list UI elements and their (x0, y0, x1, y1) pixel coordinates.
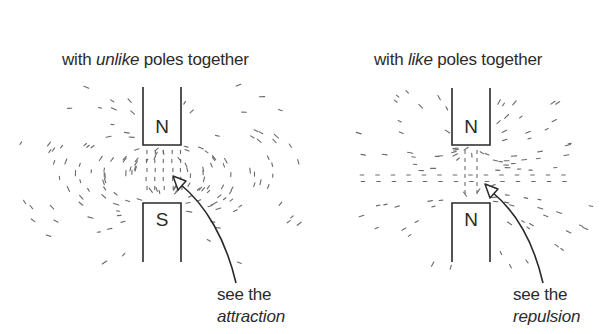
title-unlike-poles: with unlike poles together (62, 50, 249, 70)
title-prefix: with (374, 50, 408, 69)
title-suffix: poles together (433, 50, 542, 69)
caption-line2: repulsion (513, 306, 580, 328)
title-emphasis: like (408, 50, 433, 69)
title-prefix: with (62, 50, 96, 69)
caption-attraction: see the attraction (217, 284, 285, 328)
arrow-attraction (173, 176, 236, 283)
title-suffix: poles together (139, 50, 248, 69)
title-like-poles: with like poles together (374, 50, 542, 70)
magnetic-field-diagram: with unlike poles together with like pol… (0, 0, 615, 334)
pole-label-south-left: S (143, 209, 181, 231)
iron-filings-attraction (20, 84, 301, 264)
caption-line1: see the (513, 285, 567, 304)
title-emphasis: unlike (96, 50, 139, 69)
caption-line1: see the (217, 285, 271, 304)
pole-label-north-right-bottom: N (452, 209, 490, 231)
arrow-repulsion (485, 184, 543, 283)
caption-repulsion: see the repulsion (513, 284, 580, 328)
caption-line2: attraction (217, 306, 285, 328)
pole-label-north-right-top: N (452, 116, 490, 138)
pole-label-north-left: N (143, 116, 181, 138)
